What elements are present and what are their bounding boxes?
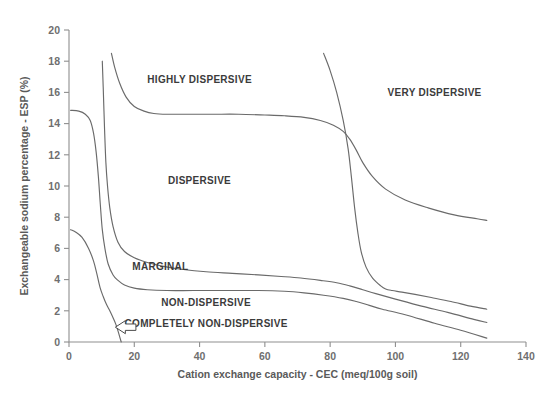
x-tick-label: 60 bbox=[259, 350, 271, 362]
chart-plot-area: 02040608010012014002468101214161820Catio… bbox=[0, 0, 560, 397]
y-tick-label: 12 bbox=[48, 149, 60, 161]
completely-non-dispersive-boundary bbox=[71, 230, 122, 342]
non-dispersive-marginal-boundary bbox=[71, 110, 487, 338]
dispersion-classification-chart: 02040608010012014002468101214161820Catio… bbox=[0, 0, 560, 397]
y-axis-title: Exchangeable sodium percentage - ESP (%) bbox=[18, 76, 30, 295]
x-axis-title: Cation exchange capacity - CEC (meq/100g… bbox=[178, 368, 418, 380]
y-tick-label: 6 bbox=[54, 242, 60, 254]
y-tick-label: 4 bbox=[54, 273, 60, 285]
y-tick-label: 8 bbox=[54, 211, 60, 223]
zone-label-dispersive: DISPERSIVE bbox=[168, 175, 231, 186]
axis-lines bbox=[69, 30, 526, 342]
y-tick-label: 10 bbox=[48, 180, 60, 192]
x-tick-label: 140 bbox=[517, 350, 535, 362]
x-tick-label: 120 bbox=[452, 350, 470, 362]
zone-label-completely-non-dispersive: COMPLETELY NON-DISPERSIVE bbox=[125, 318, 288, 329]
y-tick-label: 16 bbox=[48, 86, 60, 98]
zone-label-very-dispersive: VERY DISPERSIVE bbox=[388, 87, 482, 98]
y-tick-label: 18 bbox=[48, 55, 60, 67]
x-tick-label: 20 bbox=[128, 350, 140, 362]
y-tick-label: 0 bbox=[54, 336, 60, 348]
x-tick-label: 40 bbox=[194, 350, 206, 362]
y-tick-label: 14 bbox=[48, 117, 60, 129]
zone-label-highly-dispersive: HIGHLY DISPERSIVE bbox=[147, 74, 252, 85]
marginal-dispersive-boundary bbox=[102, 61, 487, 322]
y-tick-label: 20 bbox=[48, 24, 60, 36]
x-tick-label: 0 bbox=[66, 350, 72, 362]
x-tick-label: 100 bbox=[387, 350, 405, 362]
x-tick-label: 80 bbox=[324, 350, 336, 362]
zone-label-marginal: MARGINAL bbox=[132, 261, 188, 272]
y-tick-label: 2 bbox=[54, 305, 60, 317]
zone-label-non-dispersive: NON-DISPERSIVE bbox=[161, 297, 251, 308]
